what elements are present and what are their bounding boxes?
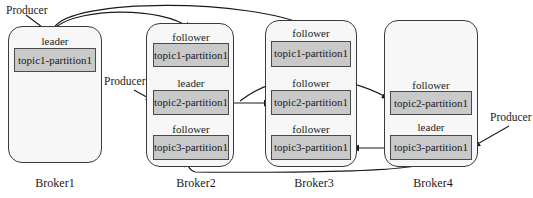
producer-label-3: Producer — [490, 111, 532, 124]
broker2-label: Broker2 — [156, 176, 236, 191]
broker3-role-1: follower — [261, 27, 361, 39]
broker4-role-2: leader — [381, 121, 481, 133]
broker3-partition-1: topic1-partition1 — [271, 41, 351, 67]
broker1-role-1: leader — [5, 35, 105, 47]
producer-label-2: Producer — [104, 75, 146, 88]
broker3-partition-2: topic2-partition1 — [271, 90, 351, 115]
broker4-partition-2: topic3-partition1 — [390, 135, 472, 160]
broker2-partition-1: topic1-partition1 — [153, 43, 229, 67]
broker2-role-3: follower — [141, 123, 241, 135]
broker2-partition-2: topic2-partition1 — [153, 90, 229, 115]
broker2-role-2: leader — [141, 77, 241, 89]
broker4-role-1: follower — [381, 79, 481, 91]
broker1-label: Broker1 — [15, 176, 95, 191]
producer-label-1: Producer — [6, 4, 48, 17]
broker4-partition-1: topic2-partition1 — [390, 91, 472, 115]
broker2-role-1: follower — [141, 31, 241, 43]
broker1-partition-1: topic1-partition1 — [14, 48, 96, 72]
broker3-label: Broker3 — [274, 176, 354, 191]
broker3-role-2: follower — [261, 77, 361, 89]
broker3-role-3: follower — [261, 123, 361, 135]
broker2-partition-3: topic3-partition1 — [153, 135, 229, 160]
broker4-label: Broker4 — [393, 176, 473, 191]
broker3-partition-3: topic3-partition1 — [271, 135, 351, 160]
